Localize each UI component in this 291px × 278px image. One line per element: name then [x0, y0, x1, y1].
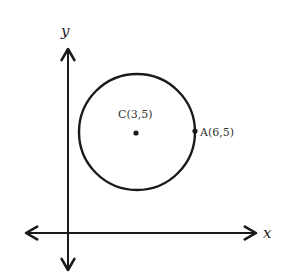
- coordinate-diagram: y x C(3,5) A(6,5): [0, 0, 291, 278]
- point-a: [192, 128, 197, 133]
- center-point-c: [133, 130, 138, 135]
- y-axis-label: y: [60, 22, 70, 40]
- x-axis-label: x: [263, 224, 272, 242]
- center-label: C(3,5): [118, 108, 153, 121]
- point-a-label: A(6,5): [199, 126, 234, 139]
